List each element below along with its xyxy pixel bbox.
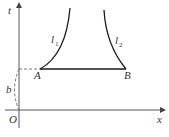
curve-l2-subscript: 2 [119,41,123,49]
x-axis-label: x [156,113,162,125]
curve-l1-label: l [51,33,54,45]
point-a-label: A [33,69,41,81]
origin-label: O [9,113,17,125]
point-b-label: B [124,69,131,81]
b-label: b [6,83,12,95]
dashed-b-arc [15,69,20,110]
curve-l2-label: l [115,34,118,46]
t-axis-label: t [8,4,12,16]
diagram-canvas: t x O A B b l 1 l 2 [0,0,169,137]
curve-l1 [40,8,70,69]
curve-l1-subscript: 1 [55,40,59,48]
